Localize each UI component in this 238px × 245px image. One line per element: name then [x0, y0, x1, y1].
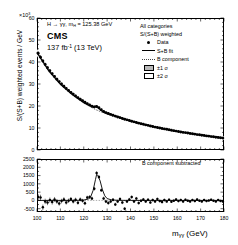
x-tick-label: 180: [220, 215, 229, 221]
residual-point: [107, 202, 110, 205]
residual-point: [217, 199, 220, 202]
residual-point: [184, 198, 187, 201]
residual-point: [154, 200, 157, 203]
legend-label: ±1 σ: [157, 65, 224, 71]
residual-point: [72, 200, 75, 203]
y-tick-label: 500: [26, 189, 35, 195]
residual-point: [175, 198, 178, 201]
residual-point: [177, 200, 180, 203]
legend-item-sb-fit[interactable]: S+B fit: [140, 47, 224, 55]
residual-point: [49, 199, 52, 202]
residual-point: [147, 198, 150, 201]
residual-point: [151, 199, 154, 202]
legend-label: ±2 σ: [157, 73, 224, 79]
open-box-icon: [140, 72, 157, 80]
residual-point: [44, 200, 47, 203]
data-point: [44, 63, 47, 66]
residual-point: [42, 206, 45, 209]
data-point: [48, 69, 51, 72]
x-tick-label: 170: [196, 215, 205, 221]
cms-logo-label: CMS: [47, 32, 68, 41]
residual-point: [210, 198, 213, 201]
x-tick-label: 130: [103, 215, 112, 221]
residual-point: [140, 199, 143, 202]
residual-point: [67, 199, 70, 202]
data-point: [62, 85, 65, 88]
data-point: [74, 94, 77, 97]
data-point: [39, 56, 42, 59]
residual-point: [163, 199, 166, 202]
residual-point: [196, 198, 199, 201]
residual-point: [165, 200, 168, 203]
residual-point: [203, 199, 206, 202]
lower-panel-label: B component subtracted: [142, 161, 200, 166]
residual-point: [119, 198, 122, 201]
residual-point: [123, 207, 126, 210]
residual-point: [60, 200, 63, 203]
residual-point: [91, 197, 94, 200]
legend-item-data[interactable]: Data: [140, 38, 224, 46]
residual-point: [95, 172, 98, 175]
y-tick-label: 60: [29, 15, 35, 21]
residual-point: [84, 202, 87, 205]
y-tick-label: 0: [32, 197, 35, 203]
legend-item-two-sigma[interactable]: ±2 σ: [140, 72, 224, 80]
residual-point: [205, 200, 208, 203]
residual-point: [161, 201, 164, 204]
residual-point: [58, 202, 61, 205]
residual-point: [168, 198, 171, 201]
residual-point: [121, 201, 124, 204]
legend-label: Data: [157, 39, 224, 45]
residual-point: [180, 199, 183, 202]
filled-box-icon: [140, 64, 157, 72]
residual-point: [198, 199, 201, 202]
data-point: [41, 59, 44, 62]
x-axis-title: mγγ (GeV): [172, 229, 208, 238]
data-point: [46, 66, 49, 69]
data-point: [37, 52, 40, 55]
residual-point: [70, 198, 73, 201]
data-point: [55, 78, 58, 81]
residual-point: [46, 201, 49, 204]
x-tick-label: 110: [56, 215, 64, 221]
solid-line-icon: [140, 47, 157, 55]
data-point: [60, 83, 63, 86]
residual-point: [77, 201, 80, 204]
y-tick-label: 2500: [23, 156, 35, 162]
residual-point: [86, 196, 89, 199]
residual-point: [128, 198, 131, 201]
legend-item-b-component[interactable]: B component: [140, 55, 224, 63]
y-tick-label: 0: [32, 147, 35, 153]
residual-point: [137, 202, 140, 205]
residual-point: [189, 200, 192, 203]
x-tick-label: 120: [79, 215, 88, 221]
legend-item-one-sigma[interactable]: ±1 σ: [140, 64, 224, 72]
residual-point: [130, 196, 133, 199]
luminosity-label: 137 fb-1 (13 TeV): [47, 44, 102, 52]
residual-point: [133, 200, 136, 203]
residual-point: [201, 200, 204, 203]
process-label: H → γγ, mH = 125.38 GeV: [47, 22, 112, 29]
legend-label: S+B fit: [157, 48, 224, 54]
y-tick-label: 30: [29, 81, 35, 87]
residual-point: [191, 199, 194, 202]
residual-point: [100, 189, 103, 192]
dotted-line-icon: [140, 55, 157, 63]
residual-point: [56, 200, 59, 203]
data-point: [67, 89, 70, 92]
data-point: [221, 137, 224, 140]
residual-point: [65, 201, 68, 204]
legend: All categories S/(S+B) weighted Data S+B…: [140, 23, 224, 81]
residual-point: [142, 198, 145, 201]
residual-point: [81, 199, 84, 202]
residual-point: [74, 198, 77, 201]
residual-point: [53, 198, 56, 201]
data-marker-icon: [140, 38, 157, 46]
x-tick-label: 160: [173, 215, 182, 221]
y-tick-label: 1500: [23, 172, 35, 178]
data-point: [69, 91, 72, 94]
residual-point: [93, 188, 96, 191]
residual-point: [102, 197, 105, 200]
data-point: [72, 93, 75, 96]
residual-point: [114, 203, 117, 206]
